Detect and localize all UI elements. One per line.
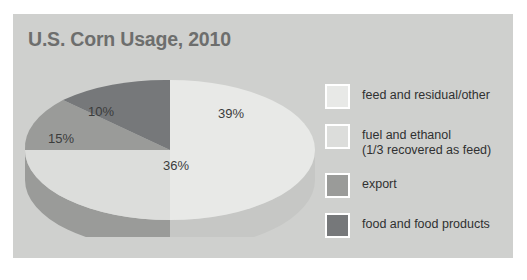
legend-label-export: export bbox=[362, 173, 397, 192]
legend-item-fuel: fuel and ethanol (1/3 recovered as feed) bbox=[325, 124, 491, 157]
legend-swatch-food bbox=[325, 213, 350, 238]
figure-container: U.S. Corn Usage, 2010 bbox=[0, 0, 527, 280]
legend-label-fuel: fuel and ethanol (1/3 recovered as feed) bbox=[362, 124, 491, 157]
pie-chart: 39% 36% 15% 10% bbox=[22, 72, 322, 237]
legend-item-food: food and food products bbox=[325, 213, 490, 238]
slice-value-export: 15% bbox=[48, 131, 74, 146]
legend-label-feed: feed and residual/other bbox=[362, 84, 490, 103]
legend-label-food: food and food products bbox=[362, 213, 490, 232]
slice-value-fuel: 36% bbox=[163, 158, 189, 173]
slice-value-food: 10% bbox=[88, 104, 114, 119]
pie-chart-svg bbox=[22, 72, 322, 237]
slice-value-feed: 39% bbox=[218, 106, 244, 121]
legend-swatch-export bbox=[325, 173, 350, 198]
legend-item-export: export bbox=[325, 173, 397, 198]
legend-swatch-feed bbox=[325, 84, 350, 109]
legend-swatch-fuel bbox=[325, 124, 350, 149]
legend-item-feed: feed and residual/other bbox=[325, 84, 490, 109]
page-title: U.S. Corn Usage, 2010 bbox=[28, 28, 231, 51]
pie-top-face bbox=[25, 80, 315, 220]
